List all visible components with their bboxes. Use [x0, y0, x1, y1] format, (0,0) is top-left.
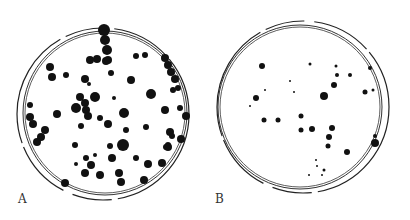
colony [299, 128, 304, 133]
colony [161, 106, 169, 114]
colony [108, 154, 116, 162]
colony [164, 61, 172, 69]
colony [93, 153, 97, 157]
colony [41, 126, 49, 134]
colony [348, 73, 352, 77]
dish-rim [25, 33, 185, 193]
colony [309, 63, 312, 66]
colony [63, 72, 69, 78]
colony [61, 179, 69, 187]
colony [177, 135, 185, 143]
colony [117, 178, 125, 186]
petri-dish-b [217, 21, 389, 193]
colony [170, 87, 176, 93]
colony [115, 169, 123, 177]
colony [299, 114, 304, 119]
colony [164, 143, 172, 151]
colony [93, 55, 101, 63]
colony [309, 126, 315, 132]
colony [133, 53, 139, 59]
colony [363, 90, 368, 95]
colony [108, 70, 114, 76]
panel-label-b: B [215, 192, 224, 206]
colony [331, 82, 337, 88]
dish-rim [218, 25, 382, 189]
colony [335, 73, 339, 77]
colony [102, 45, 112, 55]
colony [81, 99, 89, 107]
colony [102, 57, 110, 65]
colony [87, 82, 91, 86]
colony [276, 118, 281, 123]
colony [315, 159, 317, 161]
colony [371, 139, 379, 147]
colony [83, 155, 89, 161]
colony [117, 139, 129, 151]
colony [53, 110, 61, 118]
colony [169, 133, 175, 139]
colony [158, 159, 166, 167]
colony [316, 165, 318, 167]
colony [372, 89, 375, 92]
colony [264, 89, 266, 91]
dish-lid-rim [217, 21, 389, 193]
colony [81, 169, 89, 177]
colony [308, 174, 310, 176]
colony [144, 160, 152, 168]
colony [81, 75, 89, 83]
colony [100, 35, 110, 45]
colony [167, 68, 175, 76]
colony [249, 105, 251, 107]
colony [329, 125, 335, 131]
colony [171, 75, 179, 83]
colony [259, 63, 265, 69]
colony [87, 161, 95, 169]
colony [320, 92, 328, 100]
colony [146, 89, 156, 99]
colony [33, 138, 41, 146]
colony [84, 112, 92, 120]
colony [112, 96, 116, 100]
colony [177, 105, 183, 111]
colony [143, 124, 149, 130]
colony [140, 176, 148, 184]
colony [48, 73, 56, 81]
colony [71, 103, 81, 113]
colony [335, 65, 338, 68]
colony [293, 91, 295, 93]
colony [72, 142, 78, 148]
colony [26, 113, 34, 121]
petri-dish-a [17, 24, 190, 200]
colony [344, 149, 350, 155]
colony [326, 144, 331, 149]
colony [27, 102, 33, 108]
colony [161, 54, 169, 62]
petri-dish-figure [0, 0, 410, 220]
colony [96, 171, 104, 179]
colony [86, 56, 94, 64]
dish-rim [220, 27, 380, 187]
colony [123, 127, 129, 133]
colony [323, 169, 326, 172]
colony [127, 76, 135, 84]
colony [90, 92, 100, 102]
panel-label-a: A [18, 192, 27, 206]
colony [74, 162, 78, 166]
colony [46, 63, 54, 71]
colony [119, 108, 129, 118]
colony [326, 134, 332, 140]
colony [262, 118, 267, 123]
colony [98, 24, 110, 36]
colony [289, 80, 291, 82]
colony [373, 134, 377, 138]
colony [104, 120, 112, 128]
colony [253, 95, 259, 101]
colony [368, 66, 372, 70]
colony [182, 112, 190, 120]
colony [142, 52, 148, 58]
colony [321, 174, 323, 176]
colony [97, 115, 103, 121]
colony [107, 143, 113, 149]
colony [78, 123, 84, 129]
colony [133, 155, 139, 161]
